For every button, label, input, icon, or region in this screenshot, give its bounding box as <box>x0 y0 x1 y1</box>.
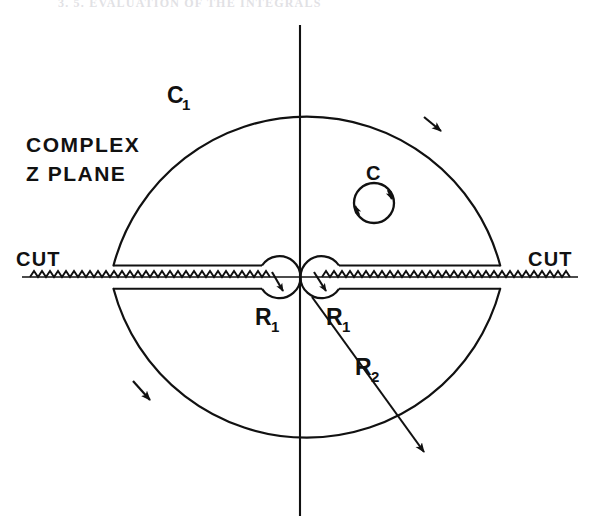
branch-cut-right-wave <box>322 271 570 277</box>
pole-circle-group <box>354 183 394 223</box>
label-r1-left: R <box>255 304 272 330</box>
figure-root: 3. 5. EVALUATION OF THE INTEGRALS <box>0 0 594 526</box>
label-complex-line2: Z PLANE <box>26 162 126 185</box>
label-r1-left-subscript: 1 <box>271 318 279 335</box>
arrowhead-small-left <box>272 272 283 291</box>
arrowhead-outer-lower-left <box>133 381 150 400</box>
outer-arc-lower <box>114 289 501 438</box>
label-pole-circle-c: C <box>366 162 380 184</box>
label-contour-c1-subscript: 1 <box>182 96 190 113</box>
label-r2-subscript: 2 <box>371 368 379 385</box>
label-r1-right: R <box>326 304 343 330</box>
pole-circle-c <box>354 183 394 223</box>
label-cut-right: CUT <box>528 248 573 270</box>
branch-cut-left-wave <box>30 271 270 277</box>
outer-arc-upper <box>114 117 501 266</box>
label-r1-right-subscript: 1 <box>342 318 350 335</box>
label-r2: R <box>355 354 372 380</box>
label-complex-line1: COMPLEX <box>26 133 140 156</box>
arrowhead-outer-upper-right <box>424 117 441 131</box>
complex-plane-diagram: COMPLEX Z PLANE C 1 C CUT CUT R 1 R 1 R … <box>0 0 594 526</box>
label-cut-left: CUT <box>16 248 61 270</box>
